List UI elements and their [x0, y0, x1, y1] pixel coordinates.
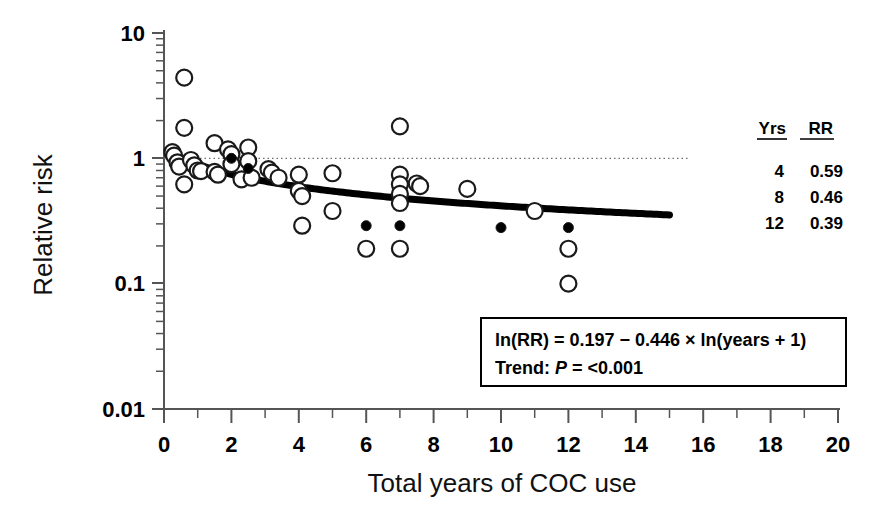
legend-header-rr: RR	[808, 119, 833, 138]
open-data-point	[291, 167, 307, 183]
legend-row-1-yrs: 8	[775, 188, 784, 207]
y-tick-label-0.01: 0.01	[102, 397, 145, 422]
open-data-point	[358, 241, 374, 257]
open-data-point	[325, 165, 341, 181]
filled-data-point	[395, 221, 405, 231]
y-tick-label-1: 1	[133, 146, 145, 171]
legend-row-2-rr: 0.39	[810, 214, 843, 233]
x-tick-label-0: 0	[158, 432, 170, 457]
filled-data-point	[361, 221, 371, 231]
open-data-point	[176, 176, 192, 192]
open-data-point	[210, 167, 226, 183]
open-data-point	[176, 120, 192, 136]
x-tick-label-6: 6	[360, 432, 372, 457]
x-tick-label-10: 10	[489, 432, 513, 457]
legend-row-1-rr: 0.46	[810, 188, 843, 207]
open-data-point	[325, 203, 341, 219]
open-data-point	[527, 203, 543, 219]
x-tick-label-20: 20	[826, 432, 850, 457]
x-tick-label-2: 2	[225, 432, 237, 457]
trend-text: Trend: P = <0.001	[495, 358, 643, 378]
trend-value: = <0.001	[567, 358, 643, 378]
chart-figure: 10 1 0.1 0.01 02468101214161820 Total ye…	[0, 0, 895, 518]
trend-label: Trend:	[495, 358, 555, 378]
open-data-point	[294, 188, 310, 204]
x-tick-label-14: 14	[624, 432, 649, 457]
legend-row-2-yrs: 12	[765, 214, 784, 233]
legend-row-0-yrs: 4	[775, 162, 785, 181]
open-data-point	[392, 241, 408, 257]
x-tick-label-8: 8	[427, 432, 439, 457]
open-data-point	[412, 178, 428, 194]
open-data-point	[176, 70, 192, 86]
x-tick-label-4: 4	[293, 432, 306, 457]
open-data-point	[392, 118, 408, 134]
x-tick-label-16: 16	[691, 432, 715, 457]
x-tick-label-18: 18	[758, 432, 782, 457]
scatter-plot-svg: 10 1 0.1 0.01 02468101214161820 Total ye…	[0, 0, 895, 518]
open-data-point	[294, 218, 310, 234]
y-tick-label-0.1: 0.1	[114, 271, 145, 296]
legend-row-0-rr: 0.59	[810, 162, 843, 181]
filled-data-point	[226, 153, 236, 163]
annotation-box: ln(RR) = 0.197 − 0.446 × ln(years + 1) T…	[481, 318, 846, 386]
open-data-point	[459, 181, 475, 197]
equation-text: ln(RR) = 0.197 − 0.446 × ln(years + 1)	[495, 330, 806, 350]
x-tick-label-12: 12	[556, 432, 580, 457]
filled-data-point	[243, 163, 253, 173]
y-tick-label-10: 10	[121, 21, 145, 46]
legend-header-yrs: Yrs	[759, 119, 786, 138]
open-data-point	[560, 241, 576, 257]
y-axis-title: Relative risk	[28, 153, 58, 296]
filled-data-point	[496, 223, 506, 233]
x-axis-title: Total years of COC use	[368, 468, 637, 498]
open-data-point	[271, 170, 287, 186]
open-data-point	[560, 276, 576, 292]
open-data-point	[392, 195, 408, 211]
filled-data-point	[563, 223, 573, 233]
